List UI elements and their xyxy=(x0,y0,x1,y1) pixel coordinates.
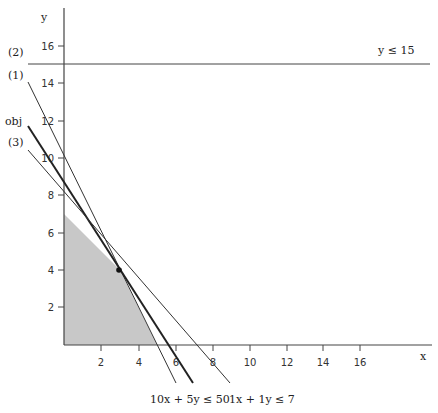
y-tick-labels: 2 4 6 8 10 12 14 16 xyxy=(41,41,54,313)
svg-text:12: 12 xyxy=(281,357,294,368)
line-3-equation: 1x + 1y ≤ 7 xyxy=(229,393,295,406)
svg-text:16: 16 xyxy=(354,357,367,368)
optimal-point xyxy=(116,267,122,273)
svg-text:8: 8 xyxy=(48,190,54,201)
constraint-3-line xyxy=(28,150,230,383)
line-2-label: (2) xyxy=(8,46,24,59)
y-axis-label: y xyxy=(40,11,48,24)
svg-text:6: 6 xyxy=(48,228,54,239)
svg-text:2: 2 xyxy=(98,357,104,368)
svg-text:4: 4 xyxy=(136,357,142,368)
x-axis-label: x xyxy=(420,350,427,363)
line-3-label: (3) xyxy=(8,136,24,149)
line-2-equation: y ≤ 15 xyxy=(377,44,414,57)
svg-text:16: 16 xyxy=(41,41,54,52)
x-ticks xyxy=(101,345,360,351)
svg-text:4: 4 xyxy=(48,265,54,276)
svg-text:14: 14 xyxy=(317,357,330,368)
line-1-equation: 10x + 5y ≤ 50 xyxy=(150,393,230,406)
obj-label: obj xyxy=(5,115,22,128)
svg-text:14: 14 xyxy=(41,78,54,89)
line-1-label: (1) xyxy=(8,69,24,82)
svg-text:10: 10 xyxy=(244,357,257,368)
lp-graph: 2 4 6 8 10 12 14 16 2 4 6 8 10 12 14 16 … xyxy=(0,0,438,413)
feasible-region xyxy=(64,214,157,345)
svg-text:2: 2 xyxy=(48,302,54,313)
x-tick-labels: 2 4 6 8 10 12 14 16 xyxy=(98,357,367,368)
